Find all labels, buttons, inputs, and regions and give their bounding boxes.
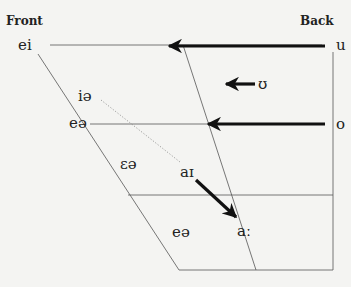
- vowel-chart: Front Back ei u ʊ iə eə o ɛə aɪ aː eə: [0, 0, 351, 287]
- vowel-epsilon-schwa: ɛə: [120, 155, 137, 173]
- vowel-o: o: [336, 115, 345, 133]
- vowel-a-i: aɪ: [180, 163, 194, 181]
- vowel-upsilon: ʊ: [258, 75, 267, 93]
- vowel-e-schwa-upper: eə: [69, 114, 87, 132]
- vowel-schwa-i: iə: [78, 87, 92, 105]
- arrows: [169, 46, 325, 217]
- vowel-u: u: [336, 36, 346, 54]
- arrow-ai: [196, 180, 236, 217]
- dotted-diagonal: [101, 100, 180, 162]
- back-header: Back: [300, 14, 334, 28]
- vowel-ei: ei: [18, 36, 32, 54]
- vowel-e-schwa-lower: eə: [172, 223, 190, 241]
- vowel-a-long: aː: [237, 222, 251, 240]
- front-header: Front: [6, 14, 43, 28]
